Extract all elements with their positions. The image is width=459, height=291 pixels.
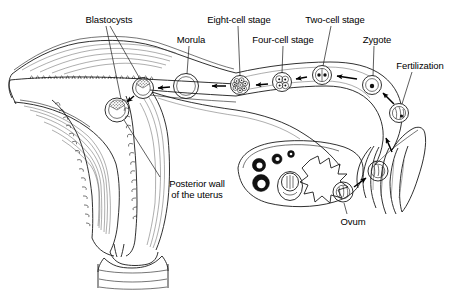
fimbriae [357, 127, 426, 214]
leader-posterior-wall [124, 120, 160, 177]
arrow-fimbriae-upward [386, 138, 392, 152]
arrow-zygote-to-two-cell [337, 76, 357, 79]
ovum-captured [368, 161, 388, 181]
leader-eight-cell [238, 26, 240, 76]
ovum-released [333, 182, 353, 202]
arrow-ovum-to-fimbriae [354, 178, 366, 187]
label-fertilization: Fertilization [385, 60, 455, 71]
graafian-follicle [278, 172, 303, 201]
stage-blastocyst-implanting [105, 98, 129, 122]
leader-morula [187, 46, 189, 74]
stage-morula [174, 74, 199, 99]
leader-blastocysts-b [110, 26, 140, 79]
arrow-morula-to-blastocyst [158, 87, 170, 88]
leader-blastocysts-a [106, 26, 121, 99]
arrow-blastocyst-to-implantation [127, 96, 134, 102]
label-two-cell-stage: Two-cell stage [296, 14, 374, 25]
stage-fertilization [390, 104, 409, 123]
leader-two-cell [323, 26, 331, 66]
arrow-fertilization-to-zygote [383, 93, 394, 104]
label-ovum: Ovum [333, 216, 373, 227]
label-posterior-wall-of-uterus: Posterior wall of the uterus [155, 178, 239, 200]
label-four-cell-stage: Four-cell stage [243, 34, 323, 45]
label-eight-cell-stage: Eight-cell stage [196, 14, 282, 25]
leader-ovum [344, 203, 347, 214]
corpus-luteum [300, 156, 348, 203]
figure-root: Blastocysts Morula Eight-cell stage Four… [0, 0, 459, 291]
endometrium-left-lining [52, 100, 93, 238]
stage-two-cell [313, 66, 332, 85]
leader-four-cell [282, 46, 283, 73]
myometrium-striations [22, 44, 176, 74]
stage-eight-cell [231, 76, 250, 95]
label-morula: Morula [167, 34, 215, 45]
arrow-four-to-eight-cell [256, 84, 268, 85]
leader-zygote [373, 46, 374, 76]
stage-blastocyst-cavity [133, 78, 154, 99]
arrow-two-to-four-cell [296, 77, 307, 79]
endometrium-right-lining [122, 96, 137, 240]
leader-fertilization [402, 72, 412, 104]
label-blastocysts: Blastocysts [74, 14, 144, 25]
stage-four-cell [273, 73, 292, 92]
stage-zygote [363, 76, 382, 95]
label-zygote: Zygote [355, 34, 399, 45]
ovary [238, 141, 363, 207]
uterus [9, 36, 236, 289]
right-wall-striations [140, 96, 165, 248]
